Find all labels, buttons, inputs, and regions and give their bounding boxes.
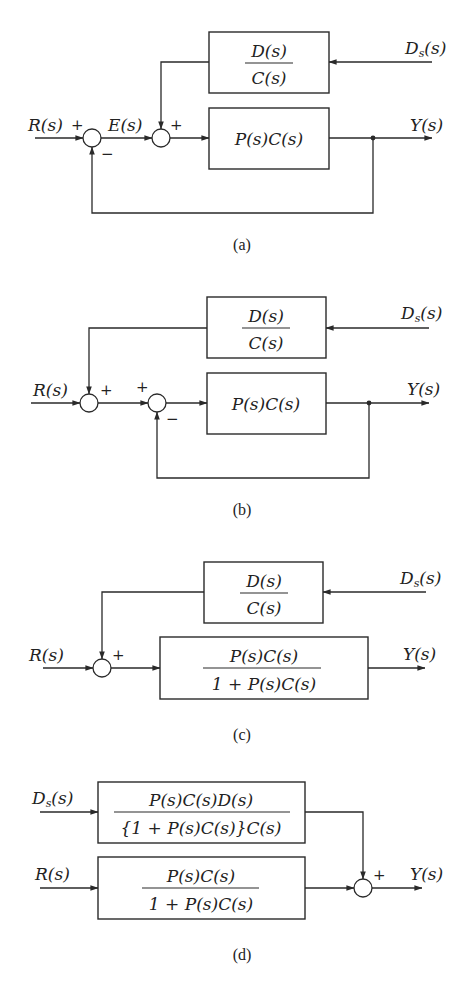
reference-path-numerator: P(s)C(s) (166, 866, 235, 886)
disturbance-input-label: Ds(s) (399, 568, 441, 590)
reference-label: R(s) (34, 864, 70, 884)
reference-label: R(s) (32, 380, 68, 400)
summing-junction-2 (148, 394, 166, 412)
disturbance-path-numerator: P(s)C(s)D(s) (148, 790, 253, 810)
disturbance-path-denominator: {1 + P(s)C(s)}C(s) (121, 818, 282, 838)
summing-junction-1 (80, 394, 98, 412)
disturbance-block-denominator: C(s) (252, 68, 287, 88)
diagram-a: D(s) C(s) P(s)C(s) R(s) + − E(s) + Y(s) … (27, 32, 446, 254)
disturbance-input-label: Ds(s) (400, 303, 442, 325)
diagram-b: D(s) C(s) P(s)C(s) R(s) + + − Y(s) Ds(s)… (31, 297, 442, 519)
caption-b: (b) (233, 501, 252, 519)
sum2-plus-sign: + (170, 116, 183, 134)
diagram-c: D(s) C(s) P(s)C(s) 1 + P(s)C(s) R(s) + Y… (28, 562, 441, 744)
diagram-d: P(s)C(s)D(s) {1 + P(s)C(s)}C(s) P(s)C(s)… (31, 782, 443, 964)
disturbance-block-numerator: D(s) (250, 41, 287, 61)
summing-junction-1 (83, 129, 101, 147)
caption-d: (d) (233, 946, 252, 964)
caption-c: (c) (233, 726, 251, 744)
summing-junction (354, 879, 372, 897)
sum1-minus-sign: − (101, 145, 114, 163)
caption-a: (a) (233, 236, 251, 254)
output-label: Y(s) (407, 379, 440, 399)
disturbance-input-label: Ds(s) (31, 788, 73, 810)
disturbance-feed-path (161, 62, 209, 129)
sum2-minus-sign: − (166, 410, 179, 428)
forward-block-expr: P(s)C(s) (231, 394, 300, 414)
closed-loop-numerator: P(s)C(s) (229, 646, 298, 666)
closed-loop-denominator: 1 + P(s)C(s) (212, 674, 316, 694)
sum-plus-sign: + (112, 646, 125, 664)
error-label: E(s) (107, 115, 142, 135)
summing-junction-2 (152, 129, 170, 147)
output-label: Y(s) (403, 644, 436, 664)
sum2-plus-sign: + (136, 378, 149, 396)
block-diagram-figure: D(s) C(s) P(s)C(s) R(s) + − E(s) + Y(s) … (0, 0, 469, 990)
reference-path-denominator: 1 + P(s)C(s) (149, 894, 253, 914)
forward-block-expr: P(s)C(s) (234, 129, 303, 149)
sum1-plus-sign: + (71, 116, 84, 134)
output-label: Y(s) (410, 115, 443, 135)
disturbance-block-numerator: D(s) (245, 571, 282, 591)
reference-label: R(s) (28, 645, 64, 665)
disturbance-block-numerator: D(s) (247, 306, 284, 326)
disturbance-block-denominator: C(s) (249, 333, 284, 353)
sum-plus-sign: + (373, 866, 386, 884)
summing-junction (93, 659, 111, 677)
reference-label: R(s) (27, 115, 63, 135)
sum1-plus-sign: + (100, 381, 113, 399)
disturbance-path-to-sum (305, 812, 363, 879)
disturbance-block-denominator: C(s) (247, 598, 282, 618)
output-label: Y(s) (410, 864, 443, 884)
disturbance-input-label: Ds(s) (404, 38, 446, 60)
